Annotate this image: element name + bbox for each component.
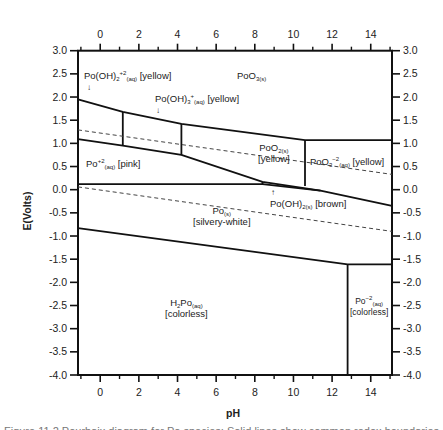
y-tick-label-left: -1.5 (49, 253, 67, 265)
y-tick-label-right: 0.5 (403, 160, 418, 172)
x-tick-label-top: 4 (175, 28, 181, 40)
arrow-up-icon: ↑ (271, 187, 275, 198)
y-tick-label-right: 2.0 (403, 91, 418, 103)
y-tick-label-left: 1.5 (52, 114, 67, 126)
y-tick-label-left: 1.0 (52, 137, 67, 149)
arrow-down-icon: ↓ (156, 105, 160, 116)
x-tick-label-bottom: 6 (213, 386, 219, 398)
label-poo3-s: PoO3(s) (237, 70, 266, 81)
label-poo3-2minus: PoO3−2(aq) [yellow] (310, 156, 384, 167)
label-po-2plus: Po+2(aq) [pink] (86, 158, 141, 169)
y-axis-title: E(Volts) (21, 176, 33, 246)
label-po-oh2-s: Po(OH)2(s) [brown] (270, 198, 346, 209)
y-tick-label-left: 2.0 (52, 91, 67, 103)
figure-caption: Figure 11.2 Pourbaix diagram for Po spec… (0, 421, 443, 430)
x-tick-label-bottom: 2 (136, 386, 142, 398)
y-tick-label-right: 0.0 (403, 183, 418, 195)
x-tick-label-top: 8 (252, 28, 258, 40)
y-tick-label-left: -2.0 (49, 276, 67, 288)
y-tick-label-right: 1.0 (403, 137, 418, 149)
y-tick-label-left: 0.0 (52, 183, 67, 195)
y-tick-label-right: 1.5 (403, 114, 418, 126)
x-tick-label-bottom: 8 (252, 386, 258, 398)
upper-oxidation-line (78, 99, 392, 140)
x-tick-label-top: 10 (288, 28, 300, 40)
lower-reduction-line (78, 228, 392, 264)
y-tick-label-right: -2.5 (403, 299, 421, 311)
y-tick-label-left: -3.0 (49, 322, 67, 334)
label-h2po: H2Po(aq) [colorless] (165, 297, 208, 319)
x-tick-label-top: 14 (365, 28, 377, 40)
x-tick-label-bottom: 12 (326, 386, 338, 398)
y-tick-label-right: -1.5 (403, 253, 421, 265)
y-tick-label-left: 3.0 (52, 44, 67, 56)
pourbaix-diagram: 00224466881010121214143.03.02.52.52.02.0… (0, 0, 443, 430)
x-tick-label-top: 6 (213, 28, 219, 40)
y-tick-label-right: 3.0 (403, 44, 418, 56)
x-tick-label-bottom: 0 (97, 386, 103, 398)
y-tick-label-left: -4.0 (49, 369, 67, 381)
y-tick-label-left: -2.5 (49, 299, 67, 311)
y-tick-label-left: -1.0 (49, 230, 67, 242)
y-tick-label-right: -4.0 (403, 369, 421, 381)
x-tick-label-bottom: 14 (365, 386, 377, 398)
x-tick-label-bottom: 10 (288, 386, 300, 398)
y-tick-label-left: 0.5 (52, 160, 67, 172)
y-tick-label-right: -3.5 (403, 345, 421, 357)
y-tick-label-left: 2.5 (52, 67, 67, 79)
x-tick-label-top: 12 (326, 28, 338, 40)
x-tick-label-top: 2 (136, 28, 142, 40)
y-tick-label-left: -3.5 (49, 345, 67, 357)
x-tick-label-top: 0 (97, 28, 103, 40)
po2plus-poo2-line (78, 139, 392, 206)
y-tick-label-right: -0.5 (403, 206, 421, 218)
y-tick-label-right: 2.5 (403, 67, 418, 79)
label-poo2-s: PoO2(s) [yellow] (258, 142, 290, 164)
y-tick-label-right: -1.0 (403, 230, 421, 242)
label-po-oh2-2plus: Po(OH)2+2(aq) [yellow] (84, 70, 171, 81)
label-po-s: Po(s) [silvery-white] (193, 205, 251, 227)
y-tick-label-right: -2.0 (403, 276, 421, 288)
x-tick-label-bottom: 4 (175, 386, 181, 398)
label-po-oh3-plus: Po(OH)3+(aq) [yellow] (155, 93, 239, 104)
y-tick-label-right: -3.0 (403, 322, 421, 334)
y-tick-label-left: -0.5 (49, 206, 67, 218)
label-po-2minus: Po−2(aq) [colorless] (350, 296, 388, 318)
arrow-down-icon: ↓ (87, 82, 91, 93)
x-axis-title: pH (226, 407, 240, 419)
